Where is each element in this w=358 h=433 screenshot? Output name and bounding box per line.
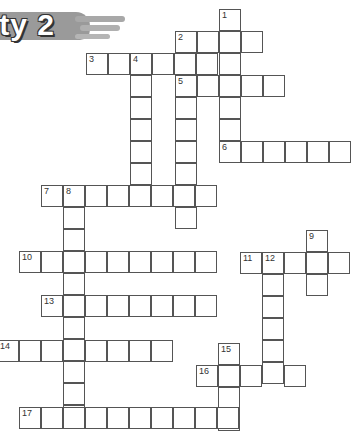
crossword-cell[interactable] (107, 295, 129, 317)
crossword-cell[interactable] (306, 252, 328, 274)
crossword-cell[interactable] (306, 274, 328, 296)
crossword-cell[interactable] (195, 251, 217, 273)
crossword-cell[interactable] (129, 295, 151, 317)
crossword-cell[interactable]: 3 (86, 53, 108, 75)
crossword-cell[interactable] (41, 251, 63, 273)
crossword-cell[interactable] (262, 340, 284, 362)
crossword-cell[interactable] (107, 251, 129, 273)
crossword-cell[interactable] (85, 295, 107, 317)
crossword-cell[interactable] (196, 53, 218, 75)
crossword-cell[interactable] (197, 75, 219, 97)
crossword-cell[interactable] (175, 207, 197, 229)
crossword-cell[interactable] (63, 339, 85, 361)
crossword-cell[interactable] (195, 185, 217, 207)
crossword-cell[interactable] (41, 340, 63, 362)
crossword-cell[interactable] (85, 251, 107, 273)
crossword-cell[interactable] (241, 31, 263, 53)
crossword-cell[interactable]: 12 (262, 252, 284, 274)
crossword-cell[interactable]: 7 (41, 185, 63, 207)
crossword-cell[interactable] (328, 252, 350, 274)
crossword-cell[interactable] (241, 75, 263, 97)
crossword-cell[interactable] (63, 229, 85, 251)
crossword-cell[interactable] (173, 185, 195, 207)
crossword-cell[interactable] (175, 141, 197, 163)
crossword-cell[interactable] (63, 207, 85, 229)
crossword-cell[interactable]: 9 (306, 230, 328, 252)
crossword-cell[interactable] (219, 53, 241, 75)
crossword-cell[interactable] (174, 53, 196, 75)
crossword-cell[interactable] (130, 141, 152, 163)
crossword-cell[interactable] (263, 141, 285, 163)
crossword-cell[interactable] (63, 251, 85, 273)
crossword-cell[interactable] (107, 340, 129, 362)
crossword-cell[interactable]: 6 (219, 141, 241, 163)
crossword-cell[interactable]: 17 (19, 407, 41, 429)
crossword-cell[interactable] (219, 75, 241, 97)
crossword-cell[interactable] (219, 31, 241, 53)
crossword-cell[interactable] (130, 163, 152, 185)
crossword-cell[interactable]: 8 (63, 185, 85, 207)
crossword-cell[interactable] (19, 340, 41, 362)
crossword-cell[interactable] (173, 295, 195, 317)
crossword-cell[interactable] (217, 407, 239, 429)
crossword-cell[interactable] (129, 340, 151, 362)
crossword-cell[interactable] (151, 340, 173, 362)
crossword-cell[interactable] (285, 141, 307, 163)
crossword-cell[interactable] (197, 31, 219, 53)
crossword-cell[interactable]: 5 (175, 75, 197, 97)
crossword-cell[interactable]: 16 (196, 365, 218, 387)
crossword-cell[interactable] (284, 365, 306, 387)
crossword-cell[interactable] (263, 75, 285, 97)
crossword-cell[interactable]: 14 (0, 340, 19, 362)
crossword-cell[interactable] (130, 75, 152, 97)
crossword-cell[interactable] (85, 407, 107, 429)
crossword-cell[interactable] (152, 53, 174, 75)
crossword-cell[interactable] (63, 383, 85, 405)
crossword-cell[interactable]: 15 (218, 343, 240, 365)
crossword-cell[interactable] (173, 407, 195, 429)
crossword-cell[interactable] (241, 141, 263, 163)
crossword-cell[interactable]: 1 (219, 9, 241, 31)
crossword-cell[interactable]: 10 (19, 251, 41, 273)
crossword-cell[interactable] (151, 185, 173, 207)
crossword-cell[interactable] (175, 97, 197, 119)
crossword-cell[interactable]: 2 (175, 31, 197, 53)
crossword-cell[interactable] (307, 141, 329, 163)
crossword-cell[interactable] (129, 251, 151, 273)
crossword-cell[interactable]: 4 (130, 53, 152, 75)
crossword-cell[interactable] (130, 119, 152, 141)
crossword-cell[interactable] (63, 361, 85, 383)
crossword-cell[interactable] (175, 163, 197, 185)
crossword-cell[interactable] (151, 251, 173, 273)
crossword-cell[interactable] (130, 97, 152, 119)
crossword-cell[interactable] (63, 317, 85, 339)
crossword-cell[interactable] (107, 185, 129, 207)
crossword-cell[interactable] (108, 53, 130, 75)
crossword-cell[interactable] (129, 407, 151, 429)
crossword-cell[interactable] (63, 273, 85, 295)
crossword-cell[interactable] (175, 119, 197, 141)
crossword-cell[interactable] (262, 296, 284, 318)
crossword-cell[interactable] (107, 407, 129, 429)
crossword-cell[interactable]: 13 (41, 295, 63, 317)
crossword-cell[interactable] (218, 387, 240, 409)
crossword-cell[interactable] (129, 185, 151, 207)
crossword-cell[interactable] (262, 318, 284, 340)
crossword-cell[interactable] (195, 407, 217, 429)
crossword-cell[interactable] (41, 407, 63, 429)
crossword-cell[interactable] (262, 362, 284, 384)
crossword-cell[interactable] (218, 365, 240, 387)
crossword-cell[interactable] (262, 274, 284, 296)
crossword-cell[interactable] (63, 407, 85, 429)
crossword-cell[interactable] (284, 252, 306, 274)
crossword-cell[interactable] (240, 365, 262, 387)
crossword-cell[interactable] (173, 251, 195, 273)
crossword-cell[interactable] (219, 119, 241, 141)
crossword-cell[interactable] (195, 295, 217, 317)
crossword-cell[interactable] (219, 97, 241, 119)
crossword-cell[interactable] (151, 295, 173, 317)
crossword-cell[interactable] (151, 407, 173, 429)
crossword-cell[interactable] (85, 340, 107, 362)
crossword-cell[interactable] (329, 141, 351, 163)
crossword-cell[interactable]: 11 (240, 252, 262, 274)
